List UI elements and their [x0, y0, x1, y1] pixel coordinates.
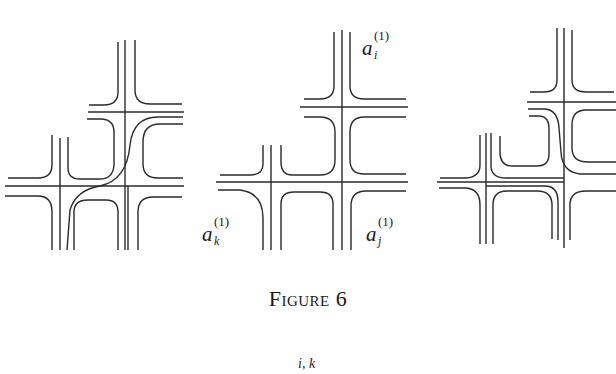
- label-a-j: a (1) j: [366, 224, 377, 245]
- label-a-j-sup: (1): [378, 215, 393, 228]
- panel-right: [437, 28, 616, 248]
- label-a-i: a (1) i: [362, 38, 373, 59]
- label-a-j-base: a: [366, 222, 377, 246]
- label-a-i-base: a: [362, 36, 373, 60]
- label-a-k-sup: (1): [214, 215, 229, 228]
- label-a-i-sup: (1): [374, 29, 389, 42]
- figure-caption: Figure 6: [0, 286, 616, 312]
- panel-left: [5, 40, 184, 250]
- figure-6-diagrams: [0, 0, 616, 374]
- label-a-j-sub: j: [378, 235, 381, 247]
- formula-fragment: i, k: [298, 356, 315, 372]
- label-a-k-base: a: [202, 222, 213, 246]
- label-a-k: a (1) k: [202, 224, 213, 245]
- label-a-k-sub: k: [214, 235, 219, 247]
- label-a-i-sub: i: [374, 49, 377, 61]
